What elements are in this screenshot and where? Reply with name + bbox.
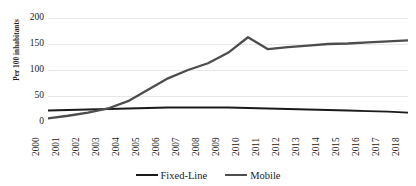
- chart-legend: Fixed-Line Mobile: [0, 166, 416, 184]
- x-tick-2014: 2014: [311, 122, 321, 156]
- x-tick-2001: 2001: [51, 122, 61, 156]
- x-tick-2009: 2009: [211, 122, 221, 156]
- series-lines: [48, 37, 408, 118]
- x-axis-tick-labels: 2000200120022003200420052006200720082009…: [48, 122, 408, 164]
- legend-swatch-fixed-line: [136, 174, 158, 176]
- y-tick-150: 150: [14, 39, 44, 49]
- x-tick-2008: 2008: [191, 122, 201, 156]
- x-tick-2010: 2010: [231, 122, 241, 156]
- x-tick-2018: 2018: [391, 122, 401, 156]
- x-tick-2002: 2002: [71, 122, 81, 156]
- legend-label-mobile: Mobile: [250, 170, 280, 181]
- x-tick-2015: 2015: [331, 122, 341, 156]
- y-axis-tick-labels: 200 150 100 50 0: [14, 0, 44, 186]
- x-tick-2003: 2003: [91, 122, 101, 156]
- x-tick-2016: 2016: [351, 122, 361, 156]
- plot-svg: [48, 18, 408, 122]
- y-tick-100: 100: [14, 65, 44, 75]
- gridlines: [48, 18, 408, 122]
- legend-swatch-mobile: [225, 174, 247, 176]
- line-chart-figure: Per 100 inhabitants 200 150 100 50 0 200…: [0, 0, 416, 186]
- x-tick-2011: 2011: [251, 122, 261, 156]
- x-tick-2004: 2004: [111, 122, 121, 156]
- legend-label-fixed-line: Fixed-Line: [161, 170, 208, 181]
- y-tick-200: 200: [14, 13, 44, 23]
- x-tick-2006: 2006: [151, 122, 161, 156]
- plot-area: [48, 18, 408, 122]
- x-tick-2017: 2017: [371, 122, 381, 156]
- legend-item-fixed-line: Fixed-Line: [136, 170, 208, 181]
- x-tick-2005: 2005: [131, 122, 141, 156]
- x-tick-2007: 2007: [171, 122, 181, 156]
- series-line-mobile: [48, 37, 408, 118]
- y-tick-50: 50: [14, 91, 44, 101]
- x-tick-2012: 2012: [271, 122, 281, 156]
- x-tick-2013: 2013: [291, 122, 301, 156]
- x-tick-2000: 2000: [31, 122, 41, 156]
- legend-item-mobile: Mobile: [225, 170, 280, 181]
